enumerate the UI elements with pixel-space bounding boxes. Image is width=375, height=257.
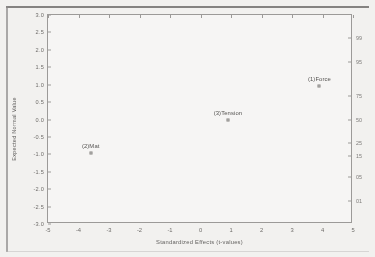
x-tick-label: -3: [106, 222, 111, 233]
y-tick-mark: [48, 136, 51, 137]
y-tick-label: 1.0: [36, 82, 48, 88]
y-tick-mark: [48, 67, 51, 68]
right-percentile-label: 50: [351, 117, 362, 123]
x-tick-label: -4: [76, 222, 81, 233]
scan-border-top: [6, 6, 369, 8]
data-point-marker: [89, 152, 92, 155]
y-tick-label: 0.5: [36, 99, 48, 105]
x-tick-label: 5: [351, 222, 354, 233]
right-tick-mark: [348, 119, 351, 120]
y-tick-label: 0.0: [36, 117, 48, 123]
x-tick-mark: [48, 15, 49, 18]
x-tick-label: 1: [229, 222, 232, 233]
right-tick-mark: [348, 176, 351, 177]
y-tick-label: 1.5: [36, 64, 48, 70]
scan-border-bottom: [6, 251, 369, 252]
y-tick-label: -0.5: [34, 134, 48, 140]
y-tick-label: 2.0: [36, 47, 48, 53]
y-tick-mark: [48, 119, 51, 120]
x-tick-mark: [231, 15, 232, 18]
data-point-label: (1)Force: [308, 76, 331, 82]
y-axis-title: Expected Normal Value: [11, 97, 17, 161]
x-tick-mark: [353, 15, 354, 18]
scan-border-left: [6, 6, 8, 252]
right-tick-mark: [348, 62, 351, 63]
x-tick-label: -5: [45, 222, 50, 233]
plot-area: 3.02.52.01.51.00.50.0-0.5-1.0-1.5-2.0-2.…: [47, 14, 352, 223]
x-tick-mark: [201, 15, 202, 18]
x-tick-mark: [109, 15, 110, 18]
y-tick-label: -1.0: [34, 151, 48, 157]
y-tick-mark: [48, 102, 51, 103]
right-tick-mark: [348, 96, 351, 97]
x-tick-label: 3: [290, 222, 293, 233]
right-tick-mark: [348, 142, 351, 143]
right-percentile-label: 15: [351, 153, 362, 159]
y-tick-label: -2.0: [34, 186, 48, 192]
y-tick-mark: [48, 84, 51, 85]
y-tick-mark: [48, 189, 51, 190]
normal-probability-plot-figure: Expected Normal Value 3.02.52.01.51.00.5…: [0, 0, 375, 257]
y-tick-mark: [48, 171, 51, 172]
data-point-marker: [318, 84, 321, 87]
y-tick-mark: [48, 49, 51, 50]
x-tick-label: 2: [260, 222, 263, 233]
x-tick-label: -1: [167, 222, 172, 233]
right-tick-mark: [348, 38, 351, 39]
data-point-label: (2)Mat: [82, 143, 100, 149]
x-axis-title: Standardized Effects (t-values): [47, 239, 352, 245]
data-point-label: (3)Tension: [214, 110, 243, 116]
y-tick-label: 3.0: [36, 12, 48, 18]
right-tick-mark: [348, 155, 351, 156]
x-tick-mark: [170, 15, 171, 18]
y-tick-label: -1.5: [34, 169, 48, 175]
x-tick-mark: [262, 15, 263, 18]
y-tick-label: -2.5: [34, 204, 48, 210]
right-percentile-label: 99: [351, 35, 362, 41]
data-point-marker: [226, 118, 229, 121]
y-tick-mark: [48, 206, 51, 207]
x-tick-label: -2: [137, 222, 142, 233]
y-tick-label: 2.5: [36, 29, 48, 35]
right-tick-mark: [348, 200, 351, 201]
x-tick-label: 4: [321, 222, 324, 233]
x-tick-mark: [79, 15, 80, 18]
y-tick-mark: [48, 154, 51, 155]
x-tick-label: 0: [199, 222, 202, 233]
right-percentile-label: 75: [351, 93, 362, 99]
x-tick-mark: [140, 15, 141, 18]
right-percentile-label: 95: [351, 59, 362, 65]
x-tick-mark: [292, 15, 293, 18]
right-percentile-label: 25: [351, 140, 362, 146]
right-percentile-label: 01: [351, 198, 362, 204]
right-percentile-label: 05: [351, 174, 362, 180]
x-tick-mark: [323, 15, 324, 18]
y-tick-mark: [48, 32, 51, 33]
